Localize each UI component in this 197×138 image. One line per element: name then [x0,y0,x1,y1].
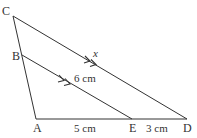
point-label-C: C [2,4,10,18]
point-label-B: B [12,49,20,63]
point-label-A: A [33,121,42,135]
length-label-BE: 6 cm [74,72,96,84]
length-label-CD: x [92,47,98,59]
point-label-E: E [129,121,136,135]
parallel-arrow-icon-BE [58,75,70,86]
geometry-diagram: C B A E D 5 cm 3 cm 6 cm x [0,0,197,138]
length-label-ED: 3 cm [146,122,168,134]
point-label-D: D [183,121,192,135]
segment-CA [13,16,36,119]
segment-CD [13,16,187,119]
segment-BE [22,55,132,119]
length-label-AE: 5 cm [74,122,96,134]
